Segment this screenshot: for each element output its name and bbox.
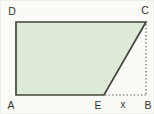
vertex-label-c: C: [141, 4, 149, 16]
vertex-label-d: D: [8, 5, 16, 17]
geometry-figure: D C A E B x: [0, 0, 154, 114]
vertex-label-a: A: [7, 99, 14, 111]
segment-label-x: x: [121, 99, 126, 110]
vertex-label-e: E: [94, 99, 101, 111]
diagram-svg: D C A E B x: [1, 1, 154, 114]
vertex-label-b: B: [144, 99, 151, 111]
